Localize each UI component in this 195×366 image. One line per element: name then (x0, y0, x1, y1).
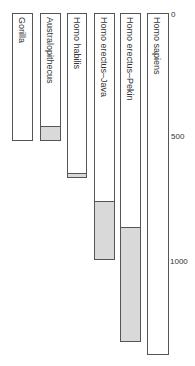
label-homo-erectus-pekin: Homo erectus–Pekin (124, 17, 136, 101)
range-homo-habilis (68, 173, 86, 177)
tick-0: 0 (171, 10, 175, 19)
bar-australopithecus: Australopithecus (40, 13, 61, 141)
range-australopithecus (41, 126, 60, 140)
bar-homo-erectus-pekin: Homo erectus–Pekin (120, 13, 141, 342)
bar-homo-erectus-java: Homo erectus–Java (94, 13, 115, 260)
label-homo-erectus-java: Homo erectus–Java (98, 17, 110, 97)
range-homo-erectus-java (95, 201, 114, 259)
label-australopithecus: Australopithecus (44, 17, 56, 84)
tick-500: 500 (171, 132, 184, 141)
brain-volume-chart: Gorilla Australopithecus Homo habilis Ho… (0, 0, 195, 366)
label-homo-habilis: Homo habilis (71, 17, 83, 69)
bar-gorilla: Gorilla (12, 13, 33, 141)
bar-homo-sapiens: Homo sapiens (147, 13, 169, 355)
bar-homo-habilis: Homo habilis (67, 13, 87, 178)
range-homo-erectus-pekin (121, 227, 140, 341)
label-gorilla: Gorilla (16, 17, 28, 43)
label-homo-sapiens: Homo sapiens (151, 17, 163, 75)
tick-1000: 1000 (170, 257, 188, 266)
